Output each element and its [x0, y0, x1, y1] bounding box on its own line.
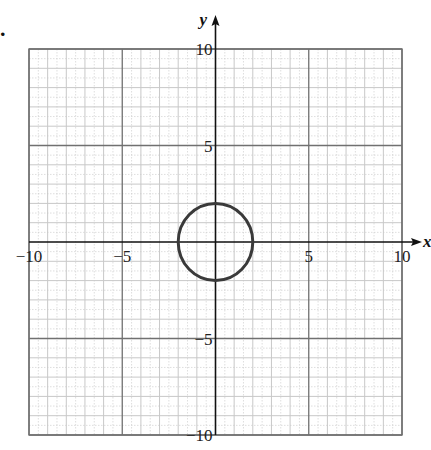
x-tick-label: 5 [305, 247, 314, 266]
y-tick-label: −5 [194, 330, 212, 349]
x-tick-label: −5 [113, 247, 131, 266]
y-tick-label: −10 [186, 426, 213, 445]
x-axis-label: x [422, 232, 431, 251]
y-tick-label: 5 [204, 137, 213, 156]
x-tick-label: −10 [16, 247, 43, 266]
coordinate-grid-figure: −10−5510105−5−10 x y . [0, 0, 431, 450]
y-axis-label: y [198, 10, 208, 29]
y-tick-label: 10 [196, 40, 213, 59]
question-marker: . [0, 16, 6, 41]
x-tick-label: 10 [394, 247, 411, 266]
